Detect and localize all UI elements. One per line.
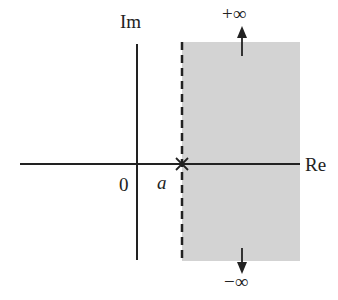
point-a-label: a (157, 173, 167, 192)
minus-infinity-label: −∞ (224, 272, 248, 291)
real-axis-label: Re (305, 155, 326, 174)
shaded-region (182, 42, 300, 261)
origin-label: 0 (119, 175, 129, 194)
plus-infinity-label: +∞ (222, 4, 246, 23)
imag-axis-label: Im (120, 12, 141, 31)
complex-plane-diagram (0, 0, 338, 300)
